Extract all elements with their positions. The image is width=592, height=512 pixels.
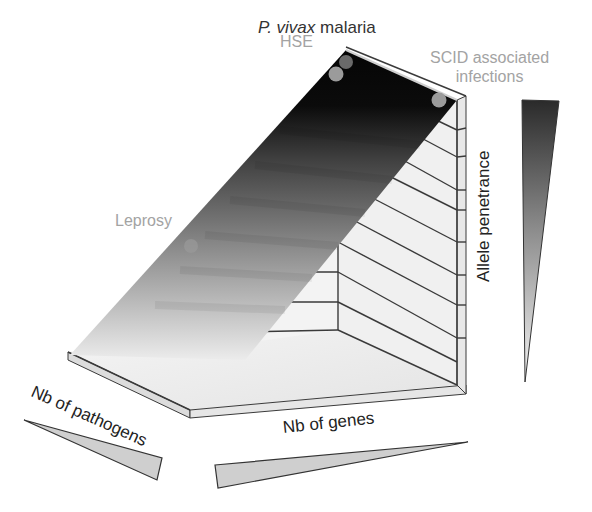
point-p-vivax-malaria	[339, 55, 353, 69]
p-vivax-malaria-label: P. vivax malaria	[258, 18, 376, 38]
point-leprosy	[184, 239, 198, 253]
hse-label: HSE	[280, 33, 313, 51]
wall-edge	[457, 96, 466, 394]
disease-name: malaria	[315, 18, 375, 37]
genes-wedge	[215, 442, 468, 488]
point-hse	[329, 67, 344, 82]
leprosy-label: Leprosy	[115, 212, 172, 230]
point-scid	[432, 93, 447, 108]
scid-label-line2: infections	[430, 67, 549, 86]
penetrance-wedge	[522, 100, 559, 382]
scid-label-line1: SCID associated	[430, 48, 549, 67]
genetic-architecture-diagram: P. vivax malaria HSE SCID associated inf…	[0, 0, 592, 512]
scid-label: SCID associated infections	[430, 48, 549, 86]
allele-penetrance-axis-label: Allele penetrance	[474, 151, 494, 282]
